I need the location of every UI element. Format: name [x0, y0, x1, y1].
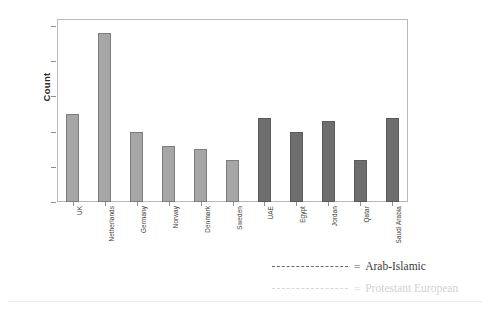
x-tick-label: Jordan — [331, 206, 338, 226]
y-tick-mark — [51, 61, 56, 62]
x-tick-mark — [169, 202, 170, 206]
x-tick-label: Sweden — [236, 206, 243, 230]
bar-uk — [66, 114, 79, 202]
x-tick-mark — [328, 202, 329, 206]
chart-page: Count 01020304050 UKNetherlandsGermanyNo… — [0, 0, 488, 312]
bar-egypt — [290, 132, 303, 202]
x-tick-mark — [73, 202, 74, 206]
x-tick-label: UK — [76, 206, 83, 215]
y-axis-title: Count — [41, 27, 52, 147]
x-tick-label: Netherlands — [108, 206, 115, 242]
bar-norway — [162, 146, 175, 202]
x-tick-label: Qatar — [363, 206, 370, 222]
y-tick-mark — [51, 96, 56, 97]
x-tick-mark — [201, 202, 202, 206]
legend-item-arab-islamic: = Arab-Islamic — [272, 255, 482, 277]
x-tick-mark — [360, 202, 361, 206]
x-tick-label: Egypt — [299, 206, 306, 223]
y-tick-mark — [51, 26, 56, 27]
x-tick-mark — [137, 202, 138, 206]
bar-series-layer — [57, 19, 408, 202]
y-tick-mark — [51, 167, 56, 168]
bar-netherlands — [98, 33, 111, 202]
y-tick-mark — [51, 202, 56, 203]
x-tick-mark — [105, 202, 106, 206]
x-tick-label: Denmark — [204, 206, 211, 233]
legend-label: Arab-Islamic — [365, 260, 426, 272]
x-tick-label: UAE — [267, 206, 274, 219]
x-tick-mark — [233, 202, 234, 206]
bar-sweden — [226, 160, 239, 202]
x-tick-label: Germany — [140, 206, 147, 233]
legend-equals-sign: = — [354, 282, 360, 294]
legend-label: Protestant European — [365, 282, 458, 294]
legend-dash-icon — [272, 288, 348, 289]
chart-legend: = Arab-Islamic = Protestant European — [272, 255, 482, 299]
x-tick-label: Saudi Arabia — [395, 206, 402, 243]
bar-germany — [130, 132, 143, 202]
bar-uae — [258, 118, 271, 202]
bar-denmark — [194, 149, 207, 202]
bar-qatar — [354, 160, 367, 202]
y-tick-mark — [51, 132, 56, 133]
bar-saudi-arabia — [386, 118, 399, 202]
x-tick-label: Norway — [172, 206, 179, 228]
bar-jordan — [322, 121, 335, 202]
bottom-divider — [8, 301, 482, 302]
legend-equals-sign: = — [354, 260, 360, 272]
legend-item-protestant-european: = Protestant European — [272, 277, 482, 299]
legend-dash-icon — [272, 266, 348, 267]
x-tick-mark — [392, 202, 393, 206]
x-tick-mark — [296, 202, 297, 206]
x-tick-mark — [264, 202, 265, 206]
